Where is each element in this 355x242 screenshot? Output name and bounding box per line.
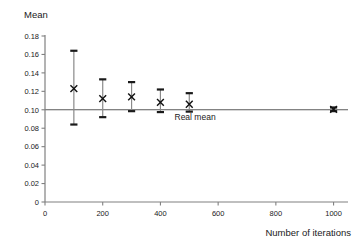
errorbar-point: [128, 82, 135, 111]
errorbar-point: [99, 79, 106, 117]
y-axis-ticks-group: 00.020.040.060.080.100.120.140.160.18: [24, 32, 45, 207]
y-tick-label: 0.04: [24, 161, 39, 170]
y-tick-label: 0.06: [24, 142, 39, 151]
x-axis-title: Number of iterations: [265, 227, 351, 238]
x-axis-ticks-group: 02004006008001000: [43, 202, 342, 218]
y-tick-label: 0.16: [24, 50, 39, 59]
y-tick-label: 0.12: [24, 87, 39, 96]
y-tick-label: 0.18: [24, 32, 39, 41]
x-tick-label: 200: [96, 209, 109, 218]
real-mean-annotation: Real mean: [175, 112, 216, 122]
x-tick-label: 600: [212, 209, 225, 218]
errorbar-point: [70, 51, 77, 125]
y-tick-label: 0.08: [24, 124, 39, 133]
errorbar-point: [186, 93, 193, 111]
y-tick-label: 0: [35, 198, 39, 207]
y-axis-title: Mean: [24, 9, 48, 20]
chart-container: 00.020.040.060.080.100.120.140.160.18 02…: [0, 0, 355, 242]
y-tick-label: 0.02: [24, 179, 39, 188]
x-tick-label: 800: [270, 209, 283, 218]
y-tick-label: 0.14: [24, 69, 39, 78]
x-tick-label: 400: [154, 209, 167, 218]
y-tick-label: 0.10: [24, 106, 39, 115]
errorbar-point: [157, 89, 164, 112]
mean-vs-iterations-errorbar-chart: 00.020.040.060.080.100.120.140.160.18 02…: [0, 0, 355, 242]
x-tick-label: 0: [43, 209, 47, 218]
x-tick-label: 1000: [325, 209, 342, 218]
